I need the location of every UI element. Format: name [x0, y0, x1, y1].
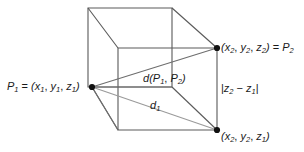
label-point-p2-base: (x2, y2, z1) [221, 131, 270, 142]
vertex-dot-p1 [89, 84, 95, 90]
label-point-p1: P1 = (x1, y1, z1) [7, 81, 80, 92]
label-delta-z: |z2 − z1| [221, 83, 259, 94]
label-distance-p1-p2: d(P1, P2) [143, 73, 186, 84]
label-point-p2: (x2, y2, z2) = P2 [221, 42, 294, 53]
vertex-dot-p2 [214, 45, 220, 51]
box-front-face [118, 48, 217, 130]
distance-diagonals [92, 48, 217, 130]
figure-container: P1 = (x1, y1, z1) (x2, y2, z2) = P2 (x2,… [0, 0, 304, 152]
edge-back-top-left-to-front-top-left [88, 8, 118, 48]
vertex-dot-p2-base [214, 127, 220, 133]
edge-back-top-right-to-front-top-right [172, 8, 217, 48]
diagonal-p1-to-front-bottom-left [92, 87, 118, 130]
label-distance-d1: d1 [150, 100, 160, 111]
edge-back-bottom-right-to-front-bottom-right [172, 87, 217, 130]
front-face-rect [118, 48, 217, 130]
vertex-dots [89, 45, 220, 133]
